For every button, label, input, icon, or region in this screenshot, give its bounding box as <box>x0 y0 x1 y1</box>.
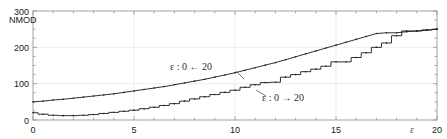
data-point <box>52 114 54 116</box>
data-point <box>426 29 428 31</box>
data-point <box>133 109 135 111</box>
data-point <box>113 112 115 114</box>
upper-branch-annotation: ε : 0 ← 20 <box>170 61 212 72</box>
data-point <box>366 52 368 54</box>
y-axis-label: NMOD <box>9 15 37 25</box>
data-point <box>184 82 186 84</box>
data-point <box>164 105 166 107</box>
x-tick-label: 0 <box>30 125 35 135</box>
data-point <box>386 42 388 44</box>
data-point <box>143 108 145 110</box>
data-point <box>416 30 418 32</box>
data-point <box>386 32 388 34</box>
x-axis-label: ε <box>410 124 414 135</box>
data-point <box>305 71 307 73</box>
data-point <box>285 59 287 61</box>
data-point <box>335 44 337 46</box>
data-point <box>42 113 44 115</box>
data-point <box>285 76 287 78</box>
data-point <box>194 98 196 100</box>
data-point <box>174 84 176 86</box>
data-point <box>406 30 408 32</box>
lower-branch-annotation: ε : 0 → 20 <box>262 92 304 103</box>
data-point <box>113 93 115 95</box>
data-point <box>32 101 34 103</box>
data-point <box>42 100 44 102</box>
data-point <box>366 36 368 38</box>
data-point <box>396 35 398 37</box>
data-point <box>265 64 267 66</box>
data-point <box>345 41 347 43</box>
data-point <box>93 114 95 116</box>
data-point <box>103 113 105 115</box>
data-point <box>214 94 216 96</box>
data-point <box>305 53 307 55</box>
data-point <box>275 81 277 83</box>
chart-svg: 05101520 0100200300 NMOD ε ε : 0 ← 20 ε … <box>0 0 447 139</box>
data-point <box>184 100 186 102</box>
x-tick-label: 5 <box>131 125 136 135</box>
data-point <box>73 115 75 117</box>
y-tick-label: 0 <box>24 116 29 126</box>
data-point <box>83 114 85 116</box>
data-point <box>295 56 297 58</box>
data-point <box>355 39 357 41</box>
data-point <box>244 87 246 89</box>
data-point <box>204 96 206 98</box>
data-point <box>63 115 65 117</box>
y-tick-label: 200 <box>14 43 29 53</box>
data-point <box>234 72 236 74</box>
x-tick-label: 20 <box>432 125 442 135</box>
data-point <box>265 82 267 84</box>
data-point <box>52 99 54 101</box>
data-point <box>234 89 236 91</box>
data-point <box>153 87 155 89</box>
data-point <box>325 65 327 67</box>
data-point <box>345 61 347 63</box>
x-axis-tick-labels: 05101520 <box>30 125 442 135</box>
data-point <box>123 110 125 112</box>
data-point <box>93 95 95 97</box>
data-point <box>194 80 196 82</box>
data-point <box>174 103 176 105</box>
data-point <box>254 67 256 69</box>
data-point <box>254 84 256 86</box>
data-point <box>32 112 34 114</box>
x-tick-label: 15 <box>331 125 341 135</box>
data-point <box>73 97 75 99</box>
data-point <box>143 89 145 91</box>
data-point <box>83 96 85 98</box>
data-point <box>123 92 125 94</box>
data-point <box>133 90 135 92</box>
data-point <box>376 33 378 35</box>
data-point <box>244 69 246 71</box>
data-point <box>355 57 357 59</box>
x-tick-label: 10 <box>230 125 240 135</box>
y-tick-label: 100 <box>14 79 29 89</box>
data-point <box>224 92 226 94</box>
data-point <box>224 74 226 76</box>
chart-figure: 05101520 0100200300 NMOD ε ε : 0 ← 20 ε … <box>0 0 447 139</box>
data-point <box>376 47 378 49</box>
data-point <box>335 61 337 63</box>
data-point <box>396 32 398 34</box>
data-point <box>295 74 297 76</box>
data-point <box>275 62 277 64</box>
data-point <box>214 76 216 78</box>
data-point <box>153 106 155 108</box>
data-point <box>63 98 65 100</box>
data-point <box>436 28 438 30</box>
data-point <box>103 94 105 96</box>
data-point <box>204 79 206 81</box>
data-point <box>164 86 166 88</box>
data-point <box>325 47 327 49</box>
data-point <box>315 50 317 52</box>
data-point <box>315 68 317 70</box>
